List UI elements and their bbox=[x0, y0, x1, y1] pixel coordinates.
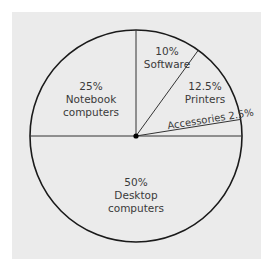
label-desktop-name-line2: computers bbox=[100, 202, 172, 215]
label-software-percent: 10% bbox=[142, 45, 192, 58]
label-software: 10% Software bbox=[142, 45, 192, 71]
label-printers-percent: 12.5% bbox=[180, 80, 230, 93]
label-desktop-name-line1: Desktop bbox=[100, 189, 172, 202]
label-desktop-percent: 50% bbox=[100, 176, 172, 189]
label-printers-name: Printers bbox=[180, 93, 230, 106]
label-notebook-name-line2: computers bbox=[55, 106, 127, 119]
label-printers: 12.5% Printers bbox=[180, 80, 230, 106]
label-notebook: 25% Notebook computers bbox=[55, 80, 127, 119]
label-notebook-percent: 25% bbox=[55, 80, 127, 93]
label-desktop: 50% Desktop computers bbox=[100, 176, 172, 215]
label-notebook-name-line1: Notebook bbox=[55, 93, 127, 106]
pie-center-dot bbox=[133, 133, 138, 138]
label-software-name: Software bbox=[142, 58, 192, 71]
pie-chart bbox=[0, 0, 271, 269]
